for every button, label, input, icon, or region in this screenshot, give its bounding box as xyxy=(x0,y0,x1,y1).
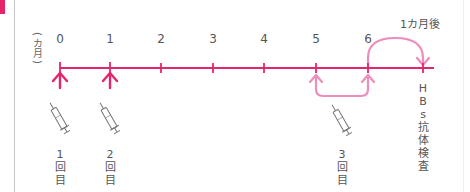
up-arrow-icon xyxy=(53,73,67,88)
curved-arrow-icon xyxy=(310,38,429,96)
dose-label-2: 2 回 目 xyxy=(103,148,117,187)
timeline-axis xyxy=(60,62,434,74)
syringe-icon xyxy=(46,100,72,134)
timeline-diagram xyxy=(0,0,470,192)
syringe-icon xyxy=(328,102,354,136)
dose-label-3: 3 回 目 xyxy=(335,148,349,187)
syringe-icon xyxy=(96,100,122,134)
hbs-antibody-test-label: H B s 抗 体 検 査 xyxy=(416,82,430,173)
up-arrow-icon xyxy=(103,73,117,88)
dose-label-1: 1 回 目 xyxy=(53,148,67,187)
